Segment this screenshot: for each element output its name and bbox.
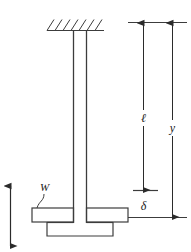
base-plate [47, 222, 113, 236]
w-leader-line [37, 194, 44, 208]
ceiling-hatching [47, 20, 102, 31]
vertical-rod [74, 31, 87, 224]
collar-flange [32, 208, 128, 236]
diagram-canvas: W ℓ δ y [0, 0, 191, 252]
dimension-ell: ℓ [141, 23, 146, 190]
dimension-ticks [128, 23, 187, 218]
collar-left-block [32, 208, 74, 222]
w-callout: W [37, 181, 50, 208]
engineering-diagram: W ℓ δ y [0, 0, 191, 252]
ceiling-support [47, 20, 104, 31]
y-label: y [169, 121, 176, 135]
ell-label: ℓ [141, 111, 146, 125]
collar-right-block [87, 208, 129, 222]
delta-label: δ [141, 199, 147, 213]
dimension-y: y [169, 23, 176, 217]
w-label: W [40, 181, 50, 193]
dimension-delta: δ [141, 199, 147, 213]
